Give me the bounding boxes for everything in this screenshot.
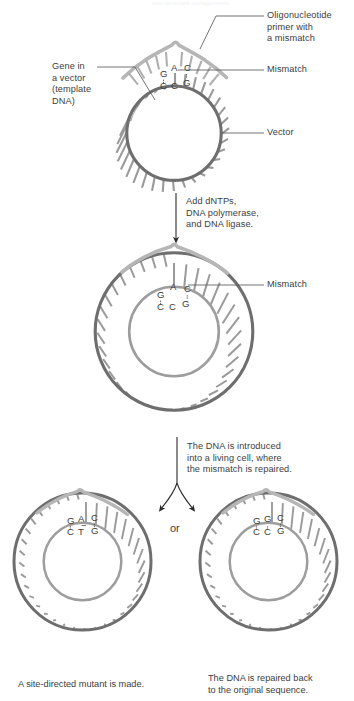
stage2-top-base-1: A [170, 281, 177, 292]
step2-branch-left [161, 483, 177, 509]
stage2-bottom-base-1: C [169, 301, 176, 312]
label-gene-in-vector: Gene in a vector (template DNA) [52, 61, 112, 107]
stage1-bottom-base-1: C [171, 80, 178, 91]
figure-root: site-directed mutagenesis [0, 0, 354, 701]
stage1-top-base-1: A [171, 62, 178, 73]
stage3-left-top-base-0: G [67, 515, 74, 526]
stage3-left-plasmid: G A C C T G [14, 490, 151, 630]
label-vector: Vector [267, 127, 353, 139]
step2-instruction-text: The DNA is introduced into a living cell… [187, 441, 337, 476]
stage2-top-base-0: G [157, 289, 164, 300]
stage3-left-top-base-1: A [78, 513, 85, 524]
stage3-right-bottom-base-0: C [253, 526, 260, 537]
stage1-top-base-0: G [160, 68, 167, 79]
stage3-right-top-base-0: G [253, 515, 260, 526]
step1-instruction-text: Add dNTPs, DNA polymerase, and DNA ligas… [186, 196, 316, 231]
stage1-bottom-base-0: C [160, 80, 167, 91]
leader-oligonucleotide [200, 16, 264, 49]
stage3-right-top-base-2: C [277, 512, 284, 523]
stage3-left-top-base-2: C [91, 512, 98, 523]
stage3-left-bottom-base-0: C [67, 526, 74, 537]
caption-site-directed-mutant: A site-directed mutant is made. [18, 678, 188, 690]
stage3-right-top-base-1: G [264, 513, 271, 524]
stage1-top-base-2: C [184, 62, 191, 73]
label-mismatch-stage1: Mismatch [267, 64, 353, 76]
stage3-left-bottom-base-1: T [78, 526, 84, 537]
caption-repaired-original: The DNA is repaired back to the original… [208, 672, 354, 696]
label-mismatch-stage2: Mismatch [267, 279, 353, 291]
stage3-right-plasmid: G G C C C G [200, 490, 337, 630]
label-oligonucleotide-primer: Oligonucleotide primer with a mismatch [267, 10, 353, 45]
stage1-bottom-base-2: G [183, 77, 190, 88]
stage3-right-bottom-base-1: C [264, 526, 271, 537]
stage2-bottom-base-2: G [182, 298, 189, 309]
step2-branch-right [177, 483, 193, 509]
stage2-plasmid: G A C C C G [95, 244, 264, 410]
branch-connector-or: or [170, 522, 180, 534]
stage2-bottom-base-0: C [157, 301, 164, 312]
